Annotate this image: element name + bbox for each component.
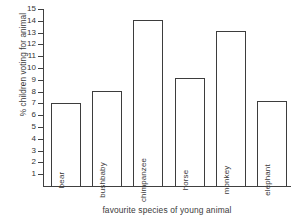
bar-monkey: monkey: [216, 31, 246, 186]
bar-label-horse: horse: [181, 170, 190, 191]
y-tick-label-4: 4: [20, 135, 36, 143]
bar-bear: bear: [51, 103, 81, 186]
y-tick-label-8: 8: [20, 88, 36, 96]
bar-label-monkey: monkey: [222, 166, 231, 195]
bar-label-chimpanzee: chimpanzee: [139, 158, 148, 202]
y-tick-label-7: 7: [20, 99, 36, 107]
y-tick-label-15: 15: [20, 5, 36, 13]
bar-label-elephant: elephant: [263, 164, 272, 196]
bar-label-bear: bear: [57, 172, 66, 188]
y-tick-label-10: 10: [20, 64, 36, 72]
bar-chimpanzee: chimpanzee: [133, 20, 163, 186]
bar-label-bushbaby: bushbaby: [98, 162, 107, 198]
x-axis-line: [43, 186, 291, 187]
y-tick-label-3: 3: [20, 147, 36, 155]
plot-area: bearbushbabychimpanzeehorsemonkeyelephan…: [43, 9, 291, 186]
y-tick-label-11: 11: [20, 52, 36, 60]
y-tick-label-5: 5: [20, 123, 36, 131]
bar-elephant: elephant: [257, 101, 287, 186]
y-tick-label-13: 13: [20, 29, 36, 37]
y-tick-label-14: 14: [20, 17, 36, 25]
y-tick-label-12: 12: [20, 40, 36, 48]
y-tick-label-1: 1: [20, 170, 36, 178]
x-axis-title: favourite species of young animal: [43, 205, 291, 215]
bar-chart: % children voting for animal 12345678910…: [0, 0, 303, 224]
bar-bushbaby: bushbaby: [92, 91, 122, 186]
y-tick-label-6: 6: [20, 111, 36, 119]
y-tick-label-2: 2: [20, 158, 36, 166]
y-tick-label-9: 9: [20, 76, 36, 84]
bar-horse: horse: [175, 78, 205, 186]
